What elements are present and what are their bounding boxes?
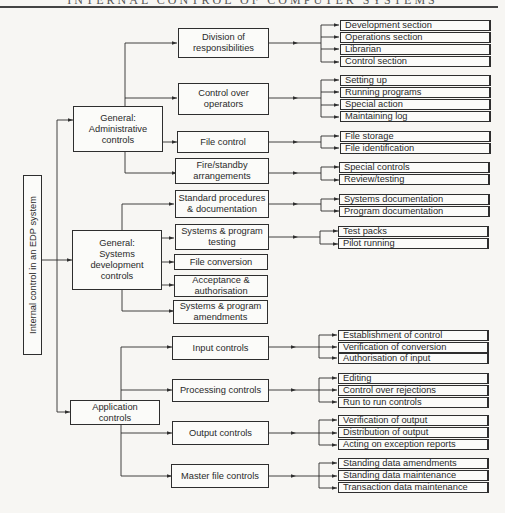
node-standard-procedures: Standard procedures & documentation bbox=[175, 190, 269, 218]
node-fire-standby: Fire/standby arrangements bbox=[175, 158, 269, 184]
leaf-establishment-of-control: Establishment of control bbox=[338, 330, 489, 341]
leaf-authorisation-of-input: Authorisation of input bbox=[338, 353, 489, 364]
node-systems-program-amendments: Systems & program amendments bbox=[173, 300, 268, 324]
leaf-standing-data-maintenance: Standing data maintenance bbox=[338, 470, 489, 481]
node-acceptance-authorisation: Acceptance & authorisation bbox=[174, 275, 268, 297]
node-processing-controls: Processing controls bbox=[172, 379, 269, 402]
leaf-test-packs: Test packs bbox=[338, 226, 489, 237]
node-file-conversion: File conversion bbox=[174, 254, 268, 270]
leaf-special-action: Special action bbox=[340, 99, 491, 110]
node-master-file-controls: Master file controls bbox=[171, 464, 269, 488]
node-systems-development-controls: General: Systems development controls bbox=[72, 230, 162, 290]
leaf-program-documentation: Program documentation bbox=[339, 206, 490, 217]
leaf-setting-up: Setting up bbox=[340, 75, 491, 86]
node-label: Fire/standby arrangements bbox=[193, 160, 250, 182]
node-label: Standard procedures & documentation bbox=[179, 193, 266, 215]
leaf-special-controls: Special controls bbox=[339, 162, 490, 173]
node-control-over-operators: Control over operators bbox=[178, 83, 269, 115]
node-label: Division of responsibilities bbox=[193, 32, 254, 54]
leaf-distribution-of-output: Distribution of output bbox=[338, 427, 489, 438]
node-label: Acceptance & authorisation bbox=[192, 275, 249, 297]
node-label: Control over operators bbox=[198, 88, 249, 110]
node-label: Processing controls bbox=[180, 385, 261, 396]
node-admin-controls: General: Administrative controls bbox=[73, 106, 163, 152]
leaf-verification-of-output: Verification of output bbox=[338, 415, 489, 426]
leaf-development-section: Development section bbox=[340, 20, 491, 31]
root-label: Internal control in an EDP system bbox=[28, 196, 38, 334]
leaf-systems-documentation: Systems documentation bbox=[339, 194, 490, 205]
node-label: Systems & program amendments bbox=[180, 301, 262, 323]
leaf-standing-data-amendments: Standing data amendments bbox=[338, 458, 489, 469]
leaf-maintaining-log: Maintaining log bbox=[340, 111, 491, 122]
node-systems-program-testing: Systems & program testing bbox=[175, 224, 269, 250]
leaf-review-testing: Review/testing bbox=[339, 174, 490, 185]
leaf-control-section: Control section bbox=[340, 56, 491, 67]
leaf-file-storage: File storage bbox=[340, 131, 491, 142]
leaf-operations-section: Operations section bbox=[340, 32, 491, 43]
leaf-run-to-run-controls: Run to run controls bbox=[338, 397, 489, 408]
node-label: File conversion bbox=[190, 257, 253, 268]
node-label: General: Systems development controls bbox=[90, 238, 143, 282]
node-division-of-responsibilities: Division of responsibilities bbox=[178, 28, 269, 58]
leaf-transaction-data-maintenance: Transaction data maintenance bbox=[338, 482, 489, 493]
node-label: Output controls bbox=[189, 428, 252, 439]
leaf-librarian: Librarian bbox=[340, 44, 491, 55]
leaf-control-over-rejections: Control over rejections bbox=[338, 385, 489, 396]
node-label: Systems & program testing bbox=[181, 226, 263, 248]
node-input-controls: Input controls bbox=[172, 336, 269, 360]
node-label: File control bbox=[200, 137, 245, 148]
node-label: Master file controls bbox=[181, 471, 259, 482]
leaf-acting-on-exception-reports: Acting on exception reports bbox=[338, 439, 489, 450]
node-application-controls: Application controls bbox=[70, 400, 160, 425]
node-label: General: Administrative controls bbox=[89, 113, 147, 146]
node-output-controls: Output controls bbox=[172, 421, 269, 445]
leaf-pilot-running: Pilot running bbox=[338, 238, 489, 249]
node-label: Input controls bbox=[193, 343, 249, 354]
leaf-running-programs: Running programs bbox=[340, 87, 491, 98]
leaf-editing: Editing bbox=[338, 373, 489, 384]
node-file-control: File control bbox=[177, 131, 269, 153]
node-label: Application controls bbox=[92, 402, 137, 424]
root-node-internal-control: Internal control in an EDP system bbox=[23, 175, 42, 355]
leaf-verification-of-conversion: Verification of conversion bbox=[338, 342, 489, 353]
leaf-file-identification: File identification bbox=[340, 143, 491, 154]
